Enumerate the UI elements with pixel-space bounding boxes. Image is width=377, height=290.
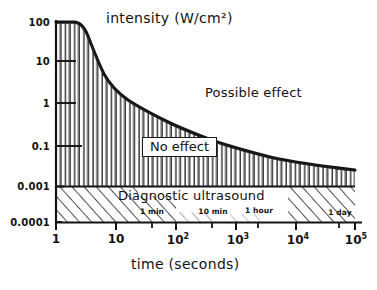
ultrasound-intensity-chart: 100 10 1 0.1 0.001 0.0001 1 10 102 103 1… xyxy=(0,0,377,290)
time-marker-1-hour: 1 hour xyxy=(245,206,273,215)
x-tick-label-10: 10 xyxy=(108,232,125,246)
y-tick-label-0-001: 0.001 xyxy=(0,181,50,192)
time-marker-10-min: 10 min xyxy=(198,207,227,216)
diagnostic-ultrasound-label: Diagnostic ultrasound xyxy=(118,188,265,203)
chart-title: intensity (W/cm²) xyxy=(106,10,233,26)
y-tick-label-10: 10 xyxy=(6,56,50,67)
possible-effect-label: Possible effect xyxy=(205,85,302,100)
x-tick-label-100000: 105 xyxy=(345,232,367,247)
x-tick-label-10000: 104 xyxy=(287,232,309,247)
x-tick-marks-major xyxy=(56,223,355,231)
y-tick-label-0-1: 0.1 xyxy=(4,141,50,152)
x-axis-title: time (seconds) xyxy=(131,256,239,272)
y-tick-label-100: 100 xyxy=(6,17,50,28)
y-tick-label-0-0001: 0.0001 xyxy=(0,217,50,228)
x-tick-label-1000: 103 xyxy=(227,232,249,247)
time-marker-1-min: 1 min xyxy=(140,207,164,216)
no-effect-label: No effect xyxy=(142,137,217,157)
x-tick-label-1: 1 xyxy=(52,232,60,246)
y-tick-label-1: 1 xyxy=(6,98,50,109)
time-marker-1-day: 1 day xyxy=(328,208,351,217)
x-tick-label-100: 102 xyxy=(167,232,189,247)
